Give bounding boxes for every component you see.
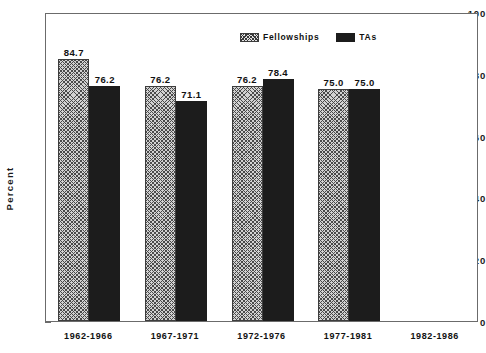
chart-root: Percent 020406080100 84.776.276.271.176.… (0, 0, 486, 353)
bar-tas-1967-1971 (176, 101, 207, 321)
bar-value-label: 75.0 (355, 77, 375, 88)
legend-item-fellowships: Fellowships (240, 32, 319, 42)
bar-value-label: 76.2 (95, 74, 115, 85)
bar-fellowships-1972-1976 (232, 86, 263, 321)
bar-fellowships-1967-1971 (145, 86, 176, 321)
legend-swatch-icon (240, 33, 259, 42)
y-tick-mark (45, 322, 51, 323)
x-tick-label: 1977-1981 (324, 331, 372, 341)
x-tick-label: 1972-1976 (237, 331, 285, 341)
legend-label: Fellowships (263, 32, 319, 42)
bar-value-label: 71.1 (181, 89, 201, 100)
bar-value-label: 76.2 (150, 74, 170, 85)
legend-swatch-icon (336, 33, 355, 42)
bar-value-label: 76.2 (237, 74, 257, 85)
chart-legend: FellowshipsTAs (240, 32, 377, 42)
bar-fellowships-1977-1981 (318, 89, 349, 321)
legend-item-tas: TAs (336, 32, 377, 42)
x-tick-label: 1967-1971 (151, 331, 199, 341)
x-tick-label: 1982-1986 (410, 331, 458, 341)
bar-value-label: 78.4 (268, 67, 288, 78)
bar-tas-1977-1981 (349, 89, 380, 321)
bar-tas-1972-1976 (263, 79, 294, 321)
y-axis-title: Percent (4, 167, 15, 211)
x-tick-label: 1962-1966 (64, 331, 112, 341)
bar-value-label: 75.0 (324, 77, 344, 88)
bar-value-label: 84.7 (64, 47, 84, 58)
legend-label: TAs (359, 32, 377, 42)
plot-area: 84.776.276.271.176.278.475.075.0 Fellows… (45, 13, 478, 322)
bar-fellowships-1962-1966 (58, 59, 89, 321)
bar-tas-1962-1966 (89, 86, 120, 321)
